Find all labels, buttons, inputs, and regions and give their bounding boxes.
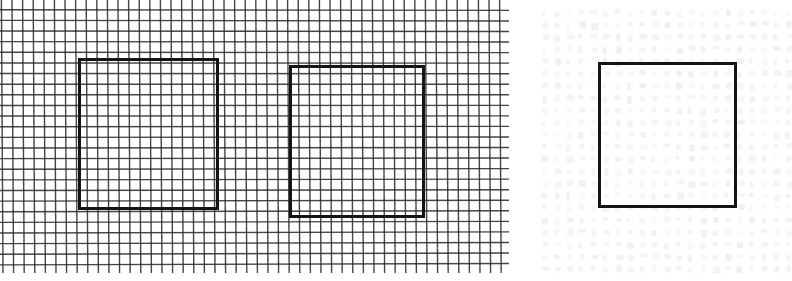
heavy-square-faint-panel <box>598 62 737 208</box>
faint-speckle-panel <box>534 0 792 281</box>
dense-grid-panel <box>0 0 509 273</box>
grid-surface <box>0 0 509 273</box>
figure-root <box>0 0 792 281</box>
heavy-square-right <box>289 65 425 218</box>
grid-lines-canvas <box>0 0 509 273</box>
heavy-square-left <box>78 58 219 210</box>
